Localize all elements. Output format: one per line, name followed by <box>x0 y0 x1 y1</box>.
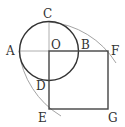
label-d: D <box>36 79 46 93</box>
label-a: A <box>5 44 15 58</box>
square-ofge <box>49 51 108 109</box>
geometry-diagram: C A O B F D E G <box>0 0 125 127</box>
label-c: C <box>43 7 52 21</box>
label-f: F <box>111 44 119 58</box>
label-g: G <box>108 111 118 125</box>
label-e: E <box>38 111 47 125</box>
label-b: B <box>81 38 90 52</box>
label-o: O <box>51 38 61 52</box>
